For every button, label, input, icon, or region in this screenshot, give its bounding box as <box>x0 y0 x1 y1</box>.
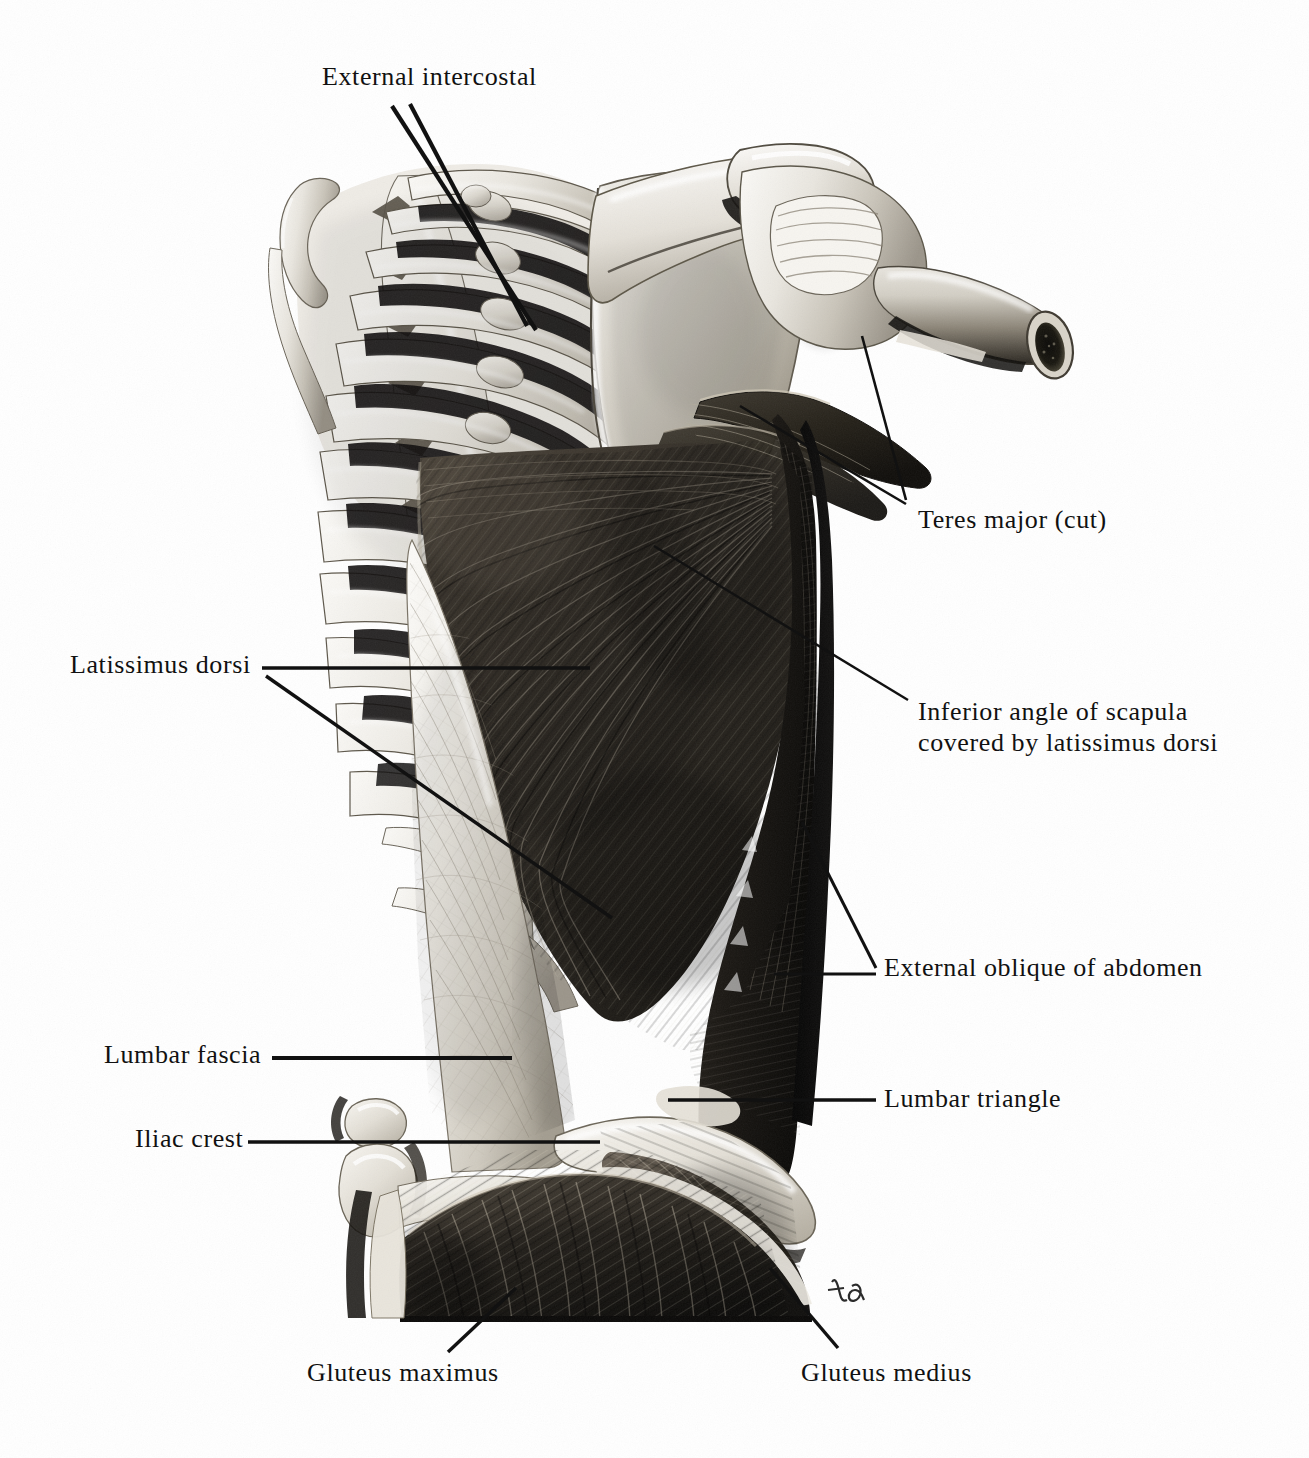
label-gluteus-medius: Gluteus medius <box>801 1358 972 1389</box>
label-iliac-crest: Iliac crest <box>135 1124 243 1155</box>
label-external-intercostal: External intercostal <box>322 62 537 93</box>
label-inferior-angle-of-scapula: Inferior angle of scapula covered by lat… <box>918 697 1258 758</box>
label-teres-major-cut-text: Teres major (cut) <box>918 505 1107 534</box>
label-lumbar-fascia-text: Lumbar fascia <box>104 1040 261 1069</box>
label-external-intercostal-text: External intercostal <box>322 62 537 91</box>
label-gluteus-maximus-text: Gluteus maximus <box>307 1358 499 1387</box>
label-inferior-angle-line1: Inferior angle of scapula <box>918 697 1188 726</box>
label-lumbar-triangle: Lumbar triangle <box>884 1084 1061 1115</box>
label-gluteus-maximus: Gluteus maximus <box>307 1358 499 1389</box>
label-external-oblique-of-abdomen: External oblique of abdomen <box>884 953 1203 984</box>
label-lumbar-fascia: Lumbar fascia <box>104 1040 261 1071</box>
label-latissimus-dorsi: Latissimus dorsi <box>70 650 251 681</box>
label-latissimus-dorsi-text: Latissimus dorsi <box>70 650 251 679</box>
label-inferior-angle-line2: covered by latissimus dorsi <box>918 728 1218 757</box>
label-iliac-crest-text: Iliac crest <box>135 1124 243 1153</box>
label-gluteus-medius-text: Gluteus medius <box>801 1358 972 1387</box>
label-external-oblique-text: External oblique of abdomen <box>884 953 1203 982</box>
label-teres-major-cut: Teres major (cut) <box>918 505 1107 536</box>
label-lumbar-triangle-text: Lumbar triangle <box>884 1084 1061 1113</box>
